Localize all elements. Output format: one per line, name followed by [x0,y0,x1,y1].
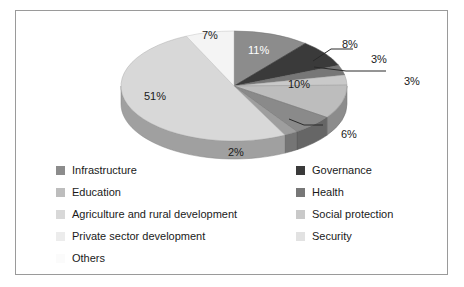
legend-swatch-icon [296,188,305,197]
legend-item-label: Education [72,186,121,198]
legend-swatch-icon [56,166,65,175]
legend-item-label: Others [72,252,105,264]
slice-label-governance: 8% [342,38,358,50]
legend-item-label: Security [312,230,352,242]
slice-label-education: 10% [288,78,310,90]
chart-legend: InfrastructureEducationAgriculture and r… [16,159,449,275]
legend-item[interactable]: Security [296,225,393,247]
legend-item[interactable]: Others [56,247,237,269]
slice-label-private-sector: 2% [228,146,244,158]
legend-item-label: Private sector development [72,230,205,242]
legend-item-label: Infrastructure [72,164,137,176]
slice-label-social-protection: 3% [404,75,420,87]
legend-swatch-icon [56,188,65,197]
legend-item-label: Governance [312,164,372,176]
legend-item[interactable]: Health [296,181,393,203]
legend-item-label: Agriculture and rural development [72,208,237,220]
legend-item[interactable]: Agriculture and rural development [56,203,237,225]
legend-swatch-icon [56,254,65,263]
legend-swatch-icon [56,232,65,241]
legend-item[interactable]: Private sector development [56,225,237,247]
legend-item-label: Health [312,186,344,198]
slice-label-agriculture: 51% [144,90,166,102]
slice-label-infrastructure: 11% [248,44,269,56]
legend-swatch-icon [296,210,305,219]
legend-item-label: Social protection [312,208,393,220]
legend-swatch-icon [56,210,65,219]
pie-chart: 11% 8% 3% 3% 10% 6% 2% 51% 7% [16,11,449,159]
legend-column-right: GovernanceHealthSocial protectionSecurit… [296,159,393,247]
legend-item[interactable]: Education [56,181,237,203]
legend-item[interactable]: Governance [296,159,393,181]
legend-swatch-icon [296,166,305,175]
slice-label-security: 6% [341,128,357,140]
slice-label-others: 7% [202,29,218,41]
chart-frame: 11% 8% 3% 3% 10% 6% 2% 51% 7% Infrastruc… [15,10,448,275]
legend-item[interactable]: Social protection [296,203,393,225]
legend-item[interactable]: Infrastructure [56,159,237,181]
slice-label-health: 3% [371,53,387,65]
legend-column-left: InfrastructureEducationAgriculture and r… [56,159,237,269]
legend-swatch-icon [296,232,305,241]
pie-svg [1,1,464,161]
